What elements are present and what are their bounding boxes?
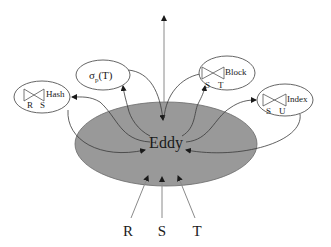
- eddy-diagram: R S Hash σp(T) S T Block S U Index Eddy …: [0, 0, 331, 247]
- index-input-s: S: [266, 106, 271, 116]
- hash-input-s: S: [40, 100, 45, 110]
- hash-label: Hash: [46, 89, 65, 99]
- operator-select: σp(T): [76, 60, 130, 90]
- input-label-s: S: [158, 223, 166, 239]
- input-label-t: T: [192, 223, 201, 239]
- block-label: Block: [225, 67, 247, 77]
- hash-input-r: R: [27, 100, 33, 110]
- block-input-t: T: [218, 80, 224, 90]
- block-input-s: S: [205, 80, 210, 90]
- index-label: Index: [287, 94, 308, 104]
- eddy-label: Eddy: [149, 134, 183, 152]
- operator-hash: R S Hash: [14, 81, 70, 113]
- index-input-u: U: [279, 106, 286, 116]
- operator-block: S T Block: [199, 56, 255, 90]
- operator-index: S U Index: [257, 84, 313, 116]
- input-label-r: R: [123, 223, 133, 239]
